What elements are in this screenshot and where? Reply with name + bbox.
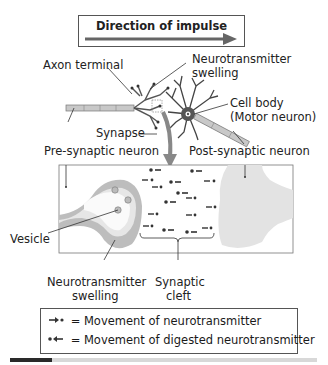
label-cell-body-1: Cell body <box>230 97 284 110</box>
label-pre-synaptic-neuron: Pre-synaptic neuron <box>44 145 159 158</box>
zoom-arrow-icon <box>163 112 170 158</box>
arrow-right-dot-icon <box>47 315 67 325</box>
label-axon-terminal: Axon terminal <box>43 59 123 72</box>
label-synaptic-cleft-2: cleft <box>166 290 191 303</box>
legend-text: = Movement of digested neurotransmitter <box>71 333 315 347</box>
label-post-synaptic-neuron: Post-synaptic neuron <box>189 145 310 158</box>
dot-arrow-left-icon <box>47 334 67 344</box>
label-synaptic-cleft-1: Synaptic <box>155 276 205 289</box>
label-nt-swelling-top-1: Neurotransmitter <box>192 53 291 66</box>
legend-box: = Movement of neurotransmitter = Movemen… <box>40 308 298 354</box>
label-cell-body-2: (Motor neuron) <box>230 111 316 124</box>
label-nt-swelling-top-2: swelling <box>192 67 239 80</box>
legend-text: = Movement of neurotransmitter <box>71 314 262 328</box>
legend-item-neurotransmitter: = Movement of neurotransmitter <box>47 314 261 328</box>
legend-item-digested: = Movement of digested neurotransmitter <box>47 333 315 347</box>
label-nt-swelling-bottom-1: Neurotransmitter <box>47 276 146 289</box>
label-nt-swelling-bottom-2: swelling <box>72 290 119 303</box>
label-synapse: Synapse <box>96 127 145 140</box>
footer-bar-light <box>52 358 317 362</box>
footer-bar-dark <box>10 358 52 362</box>
label-vesicle: Vesicle <box>10 233 50 246</box>
